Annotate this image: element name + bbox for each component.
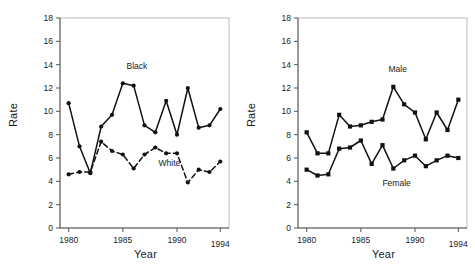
data-point-white [132, 166, 136, 170]
data-point-female [370, 162, 374, 166]
data-point-black [186, 86, 190, 90]
data-point-male [359, 123, 363, 127]
data-point-black [132, 84, 136, 88]
data-point-male [326, 151, 330, 155]
data-point-white [186, 180, 190, 184]
x-tick-label: 1990 [168, 235, 187, 245]
data-point-white [197, 168, 201, 172]
series-label-male: Male [388, 64, 407, 74]
x-tick-label: 1985 [351, 235, 370, 245]
y-tick-label: 12 [44, 83, 54, 93]
data-point-male [315, 151, 319, 155]
data-point-black [218, 107, 222, 111]
y-tick-label: 4 [286, 176, 291, 186]
data-point-black [77, 144, 81, 148]
data-point-white [207, 170, 211, 174]
data-point-white [153, 145, 157, 149]
data-point-male [445, 128, 449, 132]
chart-panel-right: Rate 0246810121416181980198519901994Male… [238, 0, 475, 276]
data-point-white [77, 170, 81, 174]
chart-panel-left: Rate 0246810121416181980198519901994Blac… [0, 0, 237, 276]
data-point-female [337, 147, 341, 151]
data-point-black [164, 99, 168, 103]
y-tick-label: 10 [44, 106, 54, 116]
x-axis-title-left: Year [58, 248, 233, 260]
data-point-female [380, 143, 384, 147]
data-point-white [121, 152, 125, 156]
data-point-male [435, 110, 439, 114]
data-point-black [99, 124, 103, 128]
data-point-male [402, 102, 406, 106]
x-axis-title-right: Year [296, 248, 471, 260]
data-point-white [88, 170, 92, 174]
data-point-black [110, 113, 114, 117]
data-point-female [326, 172, 330, 176]
data-point-female [315, 173, 319, 177]
data-point-white [175, 151, 179, 155]
data-point-male [456, 98, 460, 102]
data-point-male [348, 124, 352, 128]
x-tick-label: 1990 [406, 235, 425, 245]
data-point-female [424, 164, 428, 168]
x-tick-label: 1980 [297, 235, 316, 245]
data-point-female [402, 158, 406, 162]
y-tick-label: 18 [282, 13, 292, 23]
data-point-male [391, 85, 395, 89]
data-point-white [110, 149, 114, 153]
y-tick-label: 6 [286, 153, 291, 163]
data-point-white [99, 140, 103, 144]
data-point-female [348, 145, 352, 149]
x-tick-label: 1985 [113, 235, 132, 245]
data-point-white [218, 159, 222, 163]
series-label-white: White [159, 158, 181, 168]
data-point-female [391, 166, 395, 170]
y-tick-label: 0 [286, 223, 291, 233]
data-point-white [67, 172, 71, 176]
data-point-white [142, 152, 146, 156]
data-point-white [164, 151, 168, 155]
y-tick-label: 14 [44, 60, 54, 70]
data-point-male [370, 120, 374, 124]
data-point-male [337, 113, 341, 117]
y-tick-label: 16 [44, 36, 54, 46]
plot-area-left: 0246810121416181980198519901994BlackWhit… [0, 0, 237, 276]
data-point-black [153, 130, 157, 134]
data-point-male [380, 117, 384, 121]
data-point-male [424, 137, 428, 141]
y-tick-label: 6 [48, 153, 53, 163]
data-point-black [175, 133, 179, 137]
y-tick-label: 18 [44, 13, 54, 23]
y-tick-label: 2 [286, 200, 291, 210]
x-tick-label: 1980 [59, 235, 78, 245]
data-point-female [305, 168, 309, 172]
y-tick-label: 10 [282, 106, 292, 116]
data-point-black [197, 126, 201, 130]
data-point-black [142, 123, 146, 127]
y-tick-label: 16 [282, 36, 292, 46]
data-point-black [207, 123, 211, 127]
data-point-male [413, 110, 417, 114]
series-label-black: Black [127, 61, 149, 71]
y-tick-label: 4 [48, 176, 53, 186]
data-point-black [121, 81, 125, 85]
data-point-female [359, 138, 363, 142]
data-point-female [435, 158, 439, 162]
data-point-female [456, 156, 460, 160]
series-label-female: Female [382, 178, 411, 188]
data-point-black [67, 101, 71, 105]
y-tick-label: 2 [48, 200, 53, 210]
data-point-male [305, 130, 309, 134]
y-tick-label: 8 [48, 130, 53, 140]
y-tick-label: 8 [286, 130, 291, 140]
y-tick-label: 12 [282, 83, 292, 93]
data-point-female [445, 154, 449, 158]
y-tick-label: 0 [48, 223, 53, 233]
y-tick-label: 14 [282, 60, 292, 70]
data-point-female [413, 154, 417, 158]
series-line-white [69, 142, 221, 183]
figure: Rate 0246810121416181980198519901994Blac… [0, 0, 475, 276]
plot-area-right: 0246810121416181980198519901994MaleFemal… [238, 0, 475, 276]
